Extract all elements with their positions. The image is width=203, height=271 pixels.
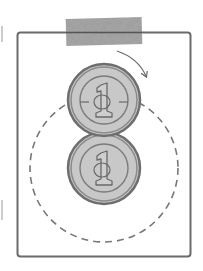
coin-rotation-diagram: [0, 0, 203, 271]
tape: [66, 17, 143, 46]
fixed-coin: [68, 132, 140, 204]
diagram-canvas: Coin rolling around a fixed coin: [0, 0, 203, 271]
rolling-coin: [68, 64, 140, 136]
